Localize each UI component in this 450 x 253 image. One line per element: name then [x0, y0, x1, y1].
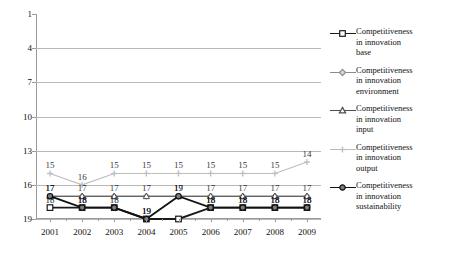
series-marker [176, 170, 182, 176]
chart-legend: Competitivenessin innovationbaseCompetit… [330, 26, 448, 219]
data-point-label: 15 [238, 161, 247, 170]
legend-item-square[interactable]: Competitivenessin innovationbase [330, 26, 448, 58]
legend-item-circle[interactable]: Competitivenessin innovationsustainabili… [330, 180, 448, 212]
series-marker [112, 205, 117, 210]
data-point-label: 18 [270, 195, 279, 204]
x-axis-tick [179, 219, 180, 222]
series-marker [272, 170, 278, 176]
x-axis-tick [275, 219, 276, 222]
data-point-label: 17 [46, 184, 55, 193]
data-point-label: 19 [174, 184, 183, 193]
data-point-label: 15 [206, 161, 215, 170]
data-point-label: 17 [110, 184, 119, 193]
series-marker [340, 146, 346, 152]
series-marker [339, 69, 345, 75]
x-axis-tick-label: 2001 [32, 228, 68, 237]
x-axis-tick [243, 219, 244, 222]
data-point-label: 18 [110, 195, 119, 204]
data-point-label: 16 [78, 172, 87, 181]
y-axis-tick [32, 219, 36, 220]
x-axis-minor-tick [66, 219, 67, 221]
series-marker [111, 170, 117, 176]
data-point-label: 17 [303, 184, 312, 193]
x-axis-tick-label: 2007 [225, 228, 261, 237]
series-marker [208, 170, 214, 176]
data-point-label: 18 [206, 195, 215, 204]
y-axis-labels: 14710131619 [0, 14, 32, 219]
series-marker [79, 205, 84, 210]
x-axis-tick [146, 219, 147, 222]
legend-label: Competitivenessin innovationenvironment [356, 65, 413, 97]
series-marker [339, 107, 345, 113]
data-point-label: 17 [238, 184, 247, 193]
x-axis-tick [82, 219, 83, 222]
data-point-label: 17 [78, 184, 87, 193]
legend-label: Competitivenessin innovationsustainabili… [356, 180, 413, 212]
y-axis-tick-label: 4 [2, 44, 32, 53]
legend-marker-icon [330, 144, 356, 155]
x-axis-tick-label: 2005 [161, 228, 197, 237]
legend-item-diamond[interactable]: Competitivenessin innovationenvironment [330, 65, 448, 97]
data-point-label: 17 [270, 184, 279, 193]
series-marker [47, 170, 53, 176]
series-marker [304, 205, 309, 210]
series-marker [340, 185, 345, 190]
series-marker [208, 205, 213, 210]
x-axis-minor-tick [259, 219, 260, 221]
y-axis-tick-label: 16 [2, 181, 32, 190]
series-marker [240, 205, 245, 210]
x-axis-tick [114, 219, 115, 222]
data-point-label: 18 [238, 195, 247, 204]
y-axis-tick-label: 10 [2, 113, 32, 122]
series-marker [47, 205, 53, 211]
x-axis-tick [50, 219, 51, 222]
series-marker [304, 159, 310, 165]
chart-container: 14710131619 1818181918181818171717171717… [0, 0, 450, 253]
data-point-label: 15 [270, 161, 279, 170]
data-point-label: 15 [46, 161, 55, 170]
x-axis-tick [307, 219, 308, 222]
series-marker [240, 170, 246, 176]
data-point-label: 15 [110, 161, 119, 170]
x-axis-tick-label: 2009 [289, 228, 325, 237]
y-axis-tick-label: 13 [2, 147, 32, 156]
y-axis-tick-label: 19 [2, 215, 32, 224]
legend-label: Competitivenessin innovationoutput [356, 142, 413, 174]
legend-marker-icon [330, 28, 356, 39]
x-axis-tick [211, 219, 212, 222]
legend-marker-icon [330, 105, 356, 116]
series-marker [272, 205, 277, 210]
data-point-label: 19 [142, 207, 151, 216]
data-point-label: 15 [174, 161, 183, 170]
x-axis-tick-label: 2002 [64, 228, 100, 237]
series-marker [176, 194, 181, 199]
x-axis-minor-tick [227, 219, 228, 221]
legend-item-triangle[interactable]: Competitivenessin innovationinput [330, 103, 448, 135]
series-marker [340, 31, 346, 37]
data-point-label: 17 [206, 184, 215, 193]
legend-item-line[interactable]: Competitivenessin innovationoutput [330, 142, 448, 174]
x-axis-tick-label: 2008 [257, 228, 293, 237]
x-axis-tick-label: 2006 [193, 228, 229, 237]
x-axis-tick-label: 2004 [128, 228, 164, 237]
x-axis-minor-tick [130, 219, 131, 221]
plot-area: 1818181918181818171717171717171717151615… [36, 14, 321, 219]
legend-marker-icon [330, 67, 356, 78]
data-point-label: 15 [142, 161, 151, 170]
x-axis-minor-tick [195, 219, 196, 221]
legend-label: Competitivenessin innovationinput [356, 103, 413, 135]
x-axis-minor-tick [162, 219, 163, 221]
data-point-label: 18 [46, 195, 55, 204]
x-axis-tick-label: 2003 [96, 228, 132, 237]
legend-label: Competitivenessin innovationbase [356, 26, 413, 58]
data-point-label: 18 [78, 195, 87, 204]
data-point-label: 14 [303, 150, 312, 159]
y-axis-tick-label: 1 [2, 10, 32, 19]
x-axis-minor-tick [291, 219, 292, 221]
legend-marker-icon [330, 182, 356, 193]
data-point-label: 17 [142, 184, 151, 193]
x-axis-minor-tick [98, 219, 99, 221]
data-point-label: 18 [303, 195, 312, 204]
y-axis-tick-label: 7 [2, 78, 32, 87]
series-marker [143, 170, 149, 176]
